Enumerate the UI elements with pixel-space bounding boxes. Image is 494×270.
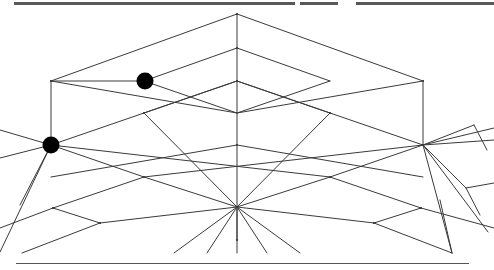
lines-layer	[0, 14, 494, 253]
diagram-line	[53, 208, 100, 223]
node-marker-left-vertex-hub	[43, 137, 60, 154]
diagram-line	[100, 207, 237, 223]
diagram-line	[474, 125, 487, 150]
node-junction-right-lower-vertex	[420, 207, 422, 209]
node-junction-left-foot-node	[99, 222, 101, 224]
diagram-line	[237, 145, 423, 177]
line-group-right-hub-rays	[423, 125, 494, 253]
diagram-line	[374, 223, 452, 253]
node-junction-center-hub	[236, 80, 238, 82]
line-group-right-outer-branches	[440, 125, 494, 253]
node-junction-left-lower-vertex	[52, 207, 54, 209]
diagram-line	[330, 177, 421, 208]
figure-root	[0, 0, 494, 270]
diagram-line	[207, 207, 237, 253]
wireframe-diagram	[0, 0, 494, 270]
diagram-line	[237, 14, 423, 81]
diagram-line	[423, 145, 466, 188]
diagram-line	[144, 145, 423, 177]
diagram-line	[421, 208, 494, 228]
node-marker-upper-left-edge-node	[137, 73, 154, 90]
diagram-line	[237, 113, 330, 207]
diagram-line	[466, 188, 480, 215]
diagram-line	[0, 208, 53, 228]
node-junction-left-post-top	[50, 80, 52, 82]
diagram-line	[144, 48, 237, 81]
diagram-line	[51, 145, 237, 177]
diagram-line	[466, 183, 494, 188]
diagram-line	[237, 48, 330, 81]
diagram-line	[51, 145, 144, 177]
diagram-line	[174, 207, 237, 253]
diagram-line	[237, 177, 330, 207]
node-junction-right-lower-cross	[329, 176, 331, 178]
node-junction-bottom-hub	[236, 206, 238, 208]
node-junction-right-post-top	[422, 80, 424, 82]
node-junction-left-inner-cross	[143, 112, 145, 114]
diagram-line	[237, 81, 423, 113]
line-group-bottom-fan	[174, 207, 300, 253]
diagram-line	[237, 207, 374, 223]
node-junction-left-lower-cross	[143, 176, 145, 178]
diagram-line	[423, 145, 452, 253]
diagram-line	[144, 177, 237, 207]
node-junction-ridge-upper-mid	[236, 47, 238, 49]
diagram-line	[423, 145, 488, 232]
node-junction-right-vertex-hub	[422, 144, 424, 146]
diagram-line	[0, 145, 51, 252]
diagram-line	[51, 14, 237, 81]
nodes-layer	[43, 13, 425, 241]
diagram-line	[330, 145, 423, 177]
diagram-line	[53, 177, 144, 208]
diagram-line	[22, 223, 100, 253]
diagram-line	[440, 200, 452, 253]
node-junction-right-foot-node	[373, 222, 375, 224]
bottom-rule	[16, 263, 469, 264]
diagram-line	[237, 207, 300, 253]
node-junction-apex-top	[236, 13, 238, 15]
diagram-line	[144, 113, 237, 207]
diagram-line	[51, 145, 330, 177]
node-junction-right-inner-cross	[329, 112, 331, 114]
diagram-line	[374, 208, 421, 223]
node-junction-center-mid	[236, 144, 238, 146]
node-junction-bottom-tail	[236, 239, 238, 241]
diagram-line	[237, 207, 267, 253]
